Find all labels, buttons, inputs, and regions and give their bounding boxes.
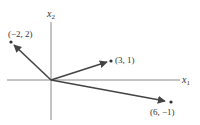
vector-6-neg1 (51, 80, 165, 101)
vector-neg2-2 (14, 45, 51, 80)
label-6-neg1: (6, −1) (150, 107, 175, 117)
point-neg2-2 (9, 40, 12, 43)
label-neg2-2: (−2, 2) (8, 29, 33, 39)
vector-diagram: x1 x2 (−2, 2) (3, 1) (6, −1) (0, 0, 200, 125)
vector-3-1 (51, 62, 107, 80)
x2-axis-label: x2 (46, 8, 55, 21)
label-3-1: (3, 1) (115, 55, 135, 65)
x1-axis-label: x1 (181, 74, 190, 87)
point-6-neg1 (169, 100, 172, 103)
point-3-1 (109, 59, 112, 62)
